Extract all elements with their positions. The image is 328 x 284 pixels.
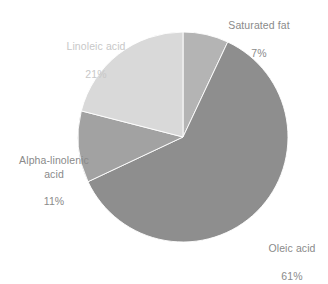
pie-label-oleic-acid-value: 61% bbox=[258, 270, 326, 284]
pie-slice-group bbox=[78, 32, 288, 242]
